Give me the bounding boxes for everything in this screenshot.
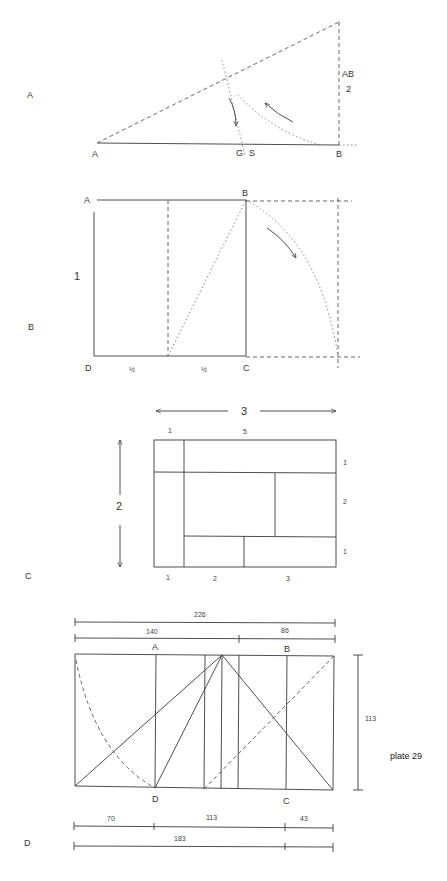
arc-b-to-base <box>246 200 338 356</box>
segment-ab <box>97 143 339 145</box>
figure-c: C 3 2 1 5 1 2 1 1 2 3 <box>25 405 347 582</box>
vertical-bc <box>286 656 287 789</box>
section-label-d: D <box>24 838 31 848</box>
point-b-label: B <box>242 188 248 198</box>
bottom-label-2: 2 <box>213 575 217 582</box>
point-c-label: C <box>243 363 250 373</box>
dim-bottom-113: 113 <box>206 814 217 821</box>
top-label-5: 5 <box>243 428 247 435</box>
diag-apex-d <box>155 655 222 788</box>
point-a-label: A <box>84 195 90 205</box>
point-g-label: G <box>236 148 243 158</box>
right-label-3: 1 <box>343 548 347 555</box>
dim-bottom-total-label: 183 <box>174 835 186 842</box>
arc-left <box>76 660 155 788</box>
plate-caption: plate 29 <box>390 751 422 761</box>
dim-major-minor <box>75 634 335 643</box>
right-label-2: 2 <box>343 498 347 505</box>
side-length-label: 1 <box>74 270 80 282</box>
figure-d: D 226 140 86 <box>24 611 376 852</box>
point-c-label: C <box>283 796 290 806</box>
half-label-left: ½ <box>129 366 135 373</box>
dim-major-label: 140 <box>146 628 158 635</box>
bottom-label-3: 3 <box>286 575 290 582</box>
dim-height-label: 113 <box>365 715 376 722</box>
section-label-a: A <box>27 90 33 100</box>
dim-minor-label: 86 <box>281 627 289 634</box>
section-label-b: B <box>28 322 34 332</box>
arrow-up-icon <box>265 103 293 122</box>
geometry-plate: A A G S B AB 2 B <box>0 0 447 881</box>
width-label: 3 <box>241 405 247 417</box>
horizontal-1 <box>154 472 336 473</box>
dim-total <box>75 618 335 627</box>
point-d-label: D <box>85 363 92 373</box>
dim-bottom-43: 43 <box>300 815 308 822</box>
arc-from-b <box>238 95 320 145</box>
arrow-arc-icon <box>267 228 296 258</box>
vertical-apex <box>221 655 222 789</box>
rect-right <box>333 656 334 790</box>
diag-apex-left <box>75 655 222 786</box>
figure-b: B A B C D 1 ½ ½ <box>28 188 360 373</box>
ratio-label-ab: AB <box>342 69 354 79</box>
diag-dashed <box>204 656 334 789</box>
height-label: 2 <box>116 500 122 512</box>
outer-rectangle <box>154 440 336 567</box>
top-label-1: 1 <box>168 427 172 434</box>
dim-height <box>353 655 363 790</box>
point-a-label: A <box>152 642 158 652</box>
dim-bottom-total <box>74 842 333 852</box>
point-s-label: S <box>249 148 255 158</box>
vertical-ad <box>155 655 156 788</box>
dim-bottom <box>74 822 333 832</box>
figure-a: A A G S B AB 2 <box>27 22 358 159</box>
section-label-c: C <box>25 571 32 581</box>
arrow-down-icon <box>229 98 236 126</box>
hypotenuse <box>97 22 339 143</box>
bottom-label-1: 1 <box>166 574 170 581</box>
point-d-label: D <box>152 794 159 804</box>
horizontal-2 <box>184 536 336 537</box>
half-label-right: ½ <box>201 366 207 373</box>
ratio-label-2: 2 <box>346 84 351 94</box>
vertical-2 <box>204 655 205 789</box>
dim-bottom-70: 70 <box>107 815 115 822</box>
point-b-label: B <box>284 644 290 654</box>
dim-total-label: 226 <box>194 611 206 618</box>
right-label-1: 1 <box>343 459 347 466</box>
rect-top <box>75 654 334 656</box>
half-diagonal <box>168 200 246 356</box>
point-a-label: A <box>92 149 98 159</box>
point-b-label: B <box>336 149 342 159</box>
